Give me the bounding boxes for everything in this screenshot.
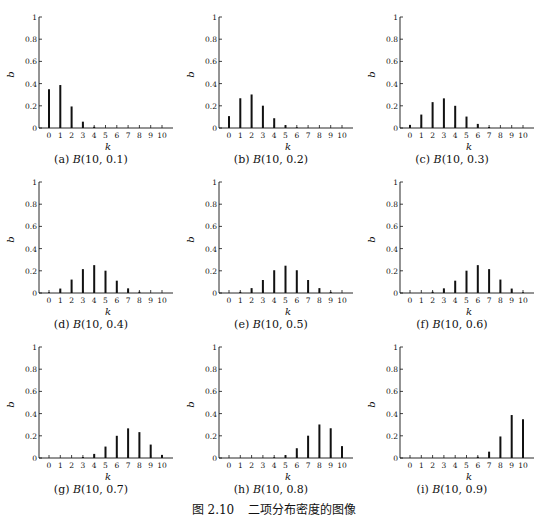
panel-caption-args: (10, 0.9) (440, 483, 487, 496)
x-tick-label: 7 (306, 296, 311, 305)
x-tick-label: 2 (69, 131, 74, 140)
bar (522, 419, 524, 458)
x-tick-label: 0 (227, 296, 232, 305)
x-tick-label: 2 (430, 461, 435, 470)
x-tick-label: 4 (272, 296, 277, 305)
x-tick-label: 9 (148, 131, 153, 140)
chart-svg: 00.20.40.60.81b012345678910k (361, 340, 543, 482)
bar (59, 85, 61, 128)
bar (82, 269, 84, 293)
x-tick-label: 4 (92, 461, 97, 470)
y-tick-label: 0 (212, 454, 217, 463)
y-tick-label: 0.2 (25, 267, 37, 276)
y-tick-label: 0.4 (25, 410, 37, 419)
x-ticks: 012345678910 (227, 455, 347, 470)
x-tick-label: 0 (47, 131, 52, 140)
bar (262, 106, 264, 128)
y-tick-label: 0 (212, 124, 217, 133)
x-tick-label: 9 (328, 131, 333, 140)
x-tick-label: 1 (419, 131, 424, 140)
x-tick-label: 4 (453, 461, 458, 470)
panel-caption: (f) B(10, 0.6) (361, 318, 543, 331)
x-tick-label: 10 (157, 296, 167, 305)
x-tick-label: 8 (317, 461, 322, 470)
bar (330, 428, 332, 458)
x-tick-label: 0 (408, 131, 413, 140)
x-tick-label: 3 (261, 461, 266, 470)
x-tick-label: 7 (306, 131, 311, 140)
x-tick-label: 1 (58, 296, 63, 305)
x-axis-label: k (466, 471, 472, 482)
figure-caption: 图 2.10二项分布密度的图像 (0, 500, 548, 517)
y-ticks: 00.20.40.60.81 (205, 13, 222, 133)
bar (48, 89, 50, 128)
x-tick-label: 0 (47, 461, 52, 470)
x-tick-label: 8 (317, 131, 322, 140)
y-tick-label: 0.2 (205, 102, 217, 111)
bars (432, 265, 524, 293)
x-tick-label: 6 (114, 296, 119, 305)
y-tick-label: 0.6 (386, 387, 398, 396)
y-ticks: 00.20.40.60.81 (25, 178, 42, 298)
x-tick-label: 0 (408, 461, 413, 470)
x-tick-label: 2 (249, 296, 254, 305)
y-axis-label: b (366, 71, 377, 77)
y-tick-label: 0.2 (386, 432, 398, 441)
x-tick-label: 8 (498, 461, 503, 470)
x-tick-label: 0 (227, 131, 232, 140)
x-axis-label: k (285, 471, 291, 482)
axes (219, 347, 353, 458)
bar (116, 436, 118, 458)
panel-caption-prefix: (f) (416, 318, 432, 331)
x-tick-label: 4 (272, 461, 277, 470)
x-tick-label: 6 (475, 461, 480, 470)
x-tick-label: 4 (92, 296, 97, 305)
x-tick-label: 10 (337, 296, 347, 305)
y-tick-label: 0.6 (25, 57, 37, 66)
chart-panel-i: 00.20.40.60.81b012345678910k(i) B(10, 0.… (361, 340, 543, 504)
figure-number: 图 2.10 (192, 503, 235, 517)
x-tick-label: 10 (157, 461, 167, 470)
bar (138, 432, 140, 458)
x-tick-label: 6 (294, 461, 299, 470)
y-tick-label: 1 (393, 178, 398, 187)
axes (400, 17, 534, 128)
chart-panel-f: 00.20.40.60.81b012345678910k(f) B(10, 0.… (361, 175, 543, 339)
bars (409, 98, 490, 128)
y-tick-label: 0.4 (386, 245, 398, 254)
panel-caption-func: B (73, 153, 81, 166)
axes (400, 347, 534, 458)
x-tick-label: 7 (126, 131, 131, 140)
x-tick-label: 1 (419, 461, 424, 470)
x-ticks: 012345678910 (227, 125, 347, 140)
y-tick-label: 1 (32, 13, 37, 22)
x-tick-label: 9 (148, 296, 153, 305)
x-tick-label: 8 (498, 131, 503, 140)
panel-caption-func: B (434, 153, 442, 166)
x-tick-label: 4 (453, 296, 458, 305)
y-tick-label: 1 (393, 343, 398, 352)
x-ticks: 012345678910 (47, 125, 167, 140)
chart-svg: 00.20.40.60.81b012345678910k (0, 175, 182, 317)
x-tick-label: 2 (430, 296, 435, 305)
x-tick-label: 6 (294, 131, 299, 140)
figure-title: 二项分布密度的图像 (248, 503, 356, 517)
y-axis-label: b (5, 236, 16, 242)
bar (105, 271, 107, 293)
y-tick-label: 0.8 (386, 35, 398, 44)
x-tick-label: 4 (92, 131, 97, 140)
bars (48, 85, 95, 128)
x-tick-label: 9 (328, 461, 333, 470)
x-tick-label: 7 (126, 296, 131, 305)
x-tick-label: 8 (137, 131, 142, 140)
x-axis-label: k (105, 306, 111, 317)
x-ticks: 012345678910 (47, 290, 167, 305)
y-tick-label: 0.8 (25, 35, 37, 44)
bar (499, 436, 501, 458)
panel-caption: (e) B(10, 0.5) (180, 318, 362, 331)
x-tick-label: 5 (283, 131, 288, 140)
bar (454, 106, 456, 128)
x-tick-label: 1 (238, 131, 243, 140)
x-tick-label: 1 (238, 296, 243, 305)
x-tick-label: 2 (249, 131, 254, 140)
